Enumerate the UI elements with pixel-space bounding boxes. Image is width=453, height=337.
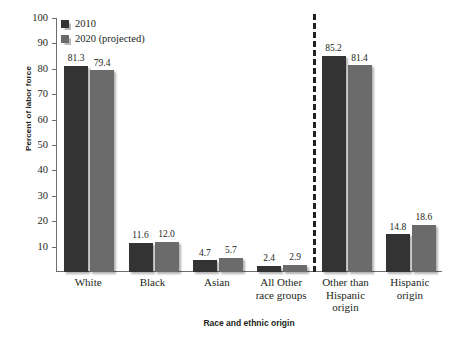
category-divider-line [313, 14, 316, 272]
x-axis-category-labels: WhiteBlackAsianAll Otherrace groupsOther… [56, 276, 442, 322]
bar[interactable] [64, 66, 88, 273]
x-axis-category-label: Asian [180, 276, 254, 289]
bar-groups: 81.379.411.612.04.75.72.42.985.281.414.8… [56, 18, 442, 272]
y-axis-tick-label: 40 [2, 165, 48, 176]
plot-area: 102030405060708090100 81.379.411.612.04.… [56, 18, 442, 272]
legend-item[interactable]: 2020 (projected) [61, 31, 145, 46]
legend-item-label: 2020 (projected) [75, 33, 145, 44]
bar-group: 2.42.9 [255, 18, 307, 272]
x-axis-category-label: Black [116, 276, 190, 289]
bar[interactable] [283, 265, 307, 272]
category-label-line: Black [116, 276, 190, 289]
chart-legend: 20102020 (projected) [61, 16, 145, 46]
bar-value-label: 12.0 [147, 230, 187, 240]
y-axis-tick-label: 60 [2, 115, 48, 126]
category-label-line: race groups [244, 289, 318, 302]
y-axis-tick-label: 30 [2, 191, 48, 202]
legend-swatch-icon [61, 35, 69, 43]
x-axis-category-label: White [51, 276, 125, 289]
y-axis-tick-label: 20 [2, 216, 48, 227]
category-label-line: Other than [309, 276, 383, 289]
bar-value-label: 18.6 [404, 213, 444, 223]
bar[interactable] [129, 243, 153, 272]
x-axis-category-label: Hispanicorigin [373, 276, 447, 301]
bar[interactable] [386, 234, 410, 272]
y-axis-tick-label: 100 [2, 13, 48, 24]
y-axis-tick-label: 50 [2, 140, 48, 151]
bar-group: 85.281.4 [320, 18, 372, 272]
bar-value-label: 81.4 [340, 54, 380, 64]
category-label-line: All Other [244, 276, 318, 289]
bar-value-label: 2.9 [275, 253, 315, 263]
bar[interactable] [219, 258, 243, 272]
legend-item[interactable]: 2010 [61, 16, 145, 31]
bar[interactable] [257, 266, 281, 272]
y-axis-tick-label: 70 [2, 89, 48, 100]
bar-value-label: 5.7 [211, 246, 251, 256]
category-label-line: Hispanic [373, 276, 447, 289]
bar-value-label: 79.4 [82, 59, 122, 69]
category-label-line: Hispanic [309, 289, 383, 302]
category-label-line: White [51, 276, 125, 289]
legend-swatch-icon [61, 20, 69, 28]
category-label-line: origin [373, 289, 447, 302]
x-axis-category-label: All Otherrace groups [244, 276, 318, 301]
bar-group: 14.818.6 [384, 18, 436, 272]
legend-item-label: 2010 [75, 18, 96, 29]
y-axis-tick-label: 80 [2, 64, 48, 75]
bar-value-label: 85.2 [314, 44, 354, 54]
bar-group: 81.379.4 [62, 18, 114, 272]
x-axis-category-label: Other thanHispanicorigin [309, 276, 383, 314]
x-axis-title: Race and ethnic origin [56, 318, 442, 328]
bar-group: 11.612.0 [127, 18, 179, 272]
bar[interactable] [90, 70, 114, 272]
bar-group: 4.75.7 [191, 18, 243, 272]
bar[interactable] [412, 225, 436, 272]
bar[interactable] [348, 65, 372, 272]
y-axis-tick-label: 10 [2, 242, 48, 253]
category-label-line: origin [309, 301, 383, 314]
bar[interactable] [155, 242, 179, 272]
bar[interactable] [193, 260, 217, 272]
chart-figure: Percent of labor force 10203040506070809… [0, 0, 453, 337]
category-label-line: Asian [180, 276, 254, 289]
y-axis-tick-label: 90 [2, 38, 48, 49]
bar[interactable] [322, 56, 346, 272]
